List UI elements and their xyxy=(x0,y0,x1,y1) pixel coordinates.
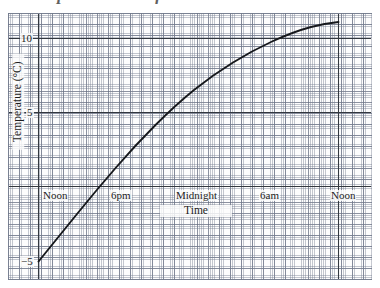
x-tick-label-6pm: 6pm xyxy=(110,190,132,201)
x-tick-label-noon-end: Noon xyxy=(330,190,356,201)
y-tick-label-10: 10 xyxy=(20,33,33,44)
temperature-curve xyxy=(39,22,339,262)
y-tick-label-5: 5 xyxy=(26,107,34,118)
x-tick-label-midnight: Midnight xyxy=(175,190,218,201)
x-tick-label-6am: 6am xyxy=(259,190,280,201)
plot-area xyxy=(0,0,380,288)
temperature-time-graph-figure: Graphs in real-life contexts 10 5 −5 Tem… xyxy=(0,0,380,288)
y-tick-label-minus5: −5 xyxy=(20,256,34,267)
x-axis-title: Time xyxy=(160,205,232,217)
x-tick-label-noon-start: Noon xyxy=(42,190,68,201)
y-axis-title-wrap: Temperature (°C) xyxy=(12,54,24,150)
y-axis-title: Temperature (°C) xyxy=(12,54,24,150)
